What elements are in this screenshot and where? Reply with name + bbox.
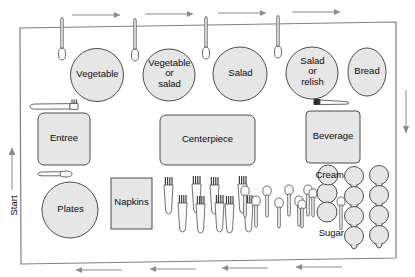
stack-shapes <box>42 178 152 238</box>
cup <box>370 226 389 249</box>
condiment-bowls <box>317 165 338 222</box>
start-label: Start <box>8 183 19 229</box>
cup-grid <box>345 166 389 250</box>
top-flow-arrows <box>72 12 340 15</box>
knife-near-beverage <box>314 100 349 105</box>
dish-shapes <box>71 47 387 102</box>
fork <box>196 196 205 233</box>
stack-plates <box>42 182 98 238</box>
serving-spoon <box>58 17 65 60</box>
spoons-front-row <box>252 196 303 228</box>
serving-spoon <box>202 16 209 59</box>
bowl-cream <box>317 183 337 203</box>
spoon <box>263 186 271 217</box>
diagram-canvas <box>0 0 415 277</box>
spoon <box>275 198 283 228</box>
fork <box>164 177 173 214</box>
fork-head-near-entree <box>70 100 78 110</box>
dish-salad-or-relish <box>286 47 338 99</box>
spoon <box>252 196 260 227</box>
dish-bread <box>348 48 386 96</box>
fork <box>178 195 187 232</box>
buffet-layout-diagram: Vegetable Vegetable or salad Salad Salad… <box>0 0 415 277</box>
cup <box>345 167 364 190</box>
spoon <box>309 189 317 217</box>
bowl-sugar <box>318 165 338 185</box>
tray-shapes <box>38 111 360 165</box>
cup <box>345 187 364 210</box>
fork <box>215 195 224 232</box>
spoon <box>337 197 345 230</box>
bowl-generic <box>317 202 337 222</box>
serving-spoon <box>274 15 281 58</box>
tray-entree <box>38 113 90 165</box>
fork <box>225 196 234 233</box>
forks-back-row <box>164 176 247 214</box>
cup <box>370 186 389 209</box>
return-arrow-head <box>403 126 409 134</box>
cup <box>370 166 389 189</box>
dish-vegetable <box>71 49 124 102</box>
tray-centerpiece <box>160 115 255 165</box>
cup <box>370 206 389 229</box>
dish-salad <box>213 47 267 101</box>
tray-beverage <box>306 111 360 163</box>
serving-spoon <box>131 18 138 61</box>
cup <box>345 227 364 250</box>
cup <box>345 207 364 230</box>
dish-vegetable-or-salad <box>143 49 195 101</box>
bottom-flow-arrows <box>76 267 342 270</box>
fork-and-knife-near-entree <box>30 100 78 110</box>
spoon-near-plates <box>38 171 72 177</box>
start-arrow-head <box>9 148 15 155</box>
spoon <box>285 185 293 216</box>
stack-napkins <box>111 178 152 229</box>
